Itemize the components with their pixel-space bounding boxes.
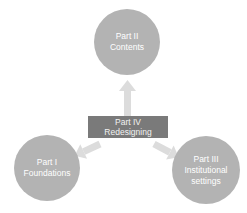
node-part-ii: Part II Contents (94, 9, 160, 75)
node-label-line1: Part I (37, 157, 57, 168)
center-box-part-iv: Part IV Redesigning (88, 116, 168, 138)
node-part-i: Part I Foundations (14, 135, 80, 201)
node-label-line3: settings (191, 176, 220, 187)
node-label-line2: Institutional (185, 165, 228, 176)
center-label-line1: Part IV (115, 117, 141, 127)
node-label-line1: Part II (116, 31, 139, 42)
node-label-line2: Foundations (24, 168, 71, 179)
center-label-line2: Redesigning (104, 127, 151, 137)
node-label-line1: Part III (193, 154, 218, 165)
arrow-up-icon (119, 80, 136, 117)
node-part-iii: Part III Institutional settings (172, 136, 240, 204)
node-label-line2: Contents (110, 42, 144, 53)
